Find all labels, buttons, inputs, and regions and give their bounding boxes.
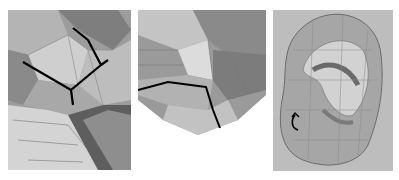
mesh-panel-right: [273, 10, 393, 171]
nose-mesh-image: [8, 10, 131, 170]
mesh-panel-left: [8, 10, 131, 170]
ear-mesh-image: [273, 10, 393, 171]
nostril-mesh-image: [138, 10, 266, 135]
mesh-panel-middle: [138, 10, 266, 135]
